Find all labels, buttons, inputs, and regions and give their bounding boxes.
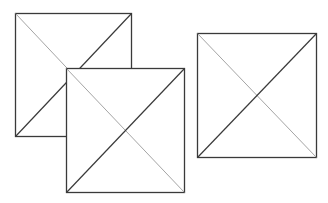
diagram-canvas xyxy=(0,0,328,203)
square-3 xyxy=(198,34,317,158)
square-2 xyxy=(67,69,185,193)
